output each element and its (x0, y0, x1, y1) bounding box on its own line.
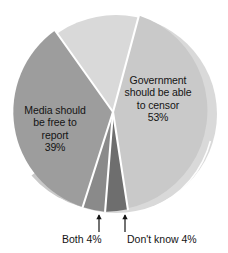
pie-label-government: Government should be able to censor 53% (112, 74, 204, 124)
callout-arrow-both (96, 214, 101, 232)
pie-label-dont-know: Don't know 4% (127, 233, 197, 245)
callout-arrow-dont-know (122, 214, 127, 232)
pie-chart: Government should be able to censor 53% … (0, 0, 228, 253)
pie-label-media: Media should be free to report 39% (12, 104, 98, 154)
pie-label-both: Both 4% (62, 233, 102, 245)
